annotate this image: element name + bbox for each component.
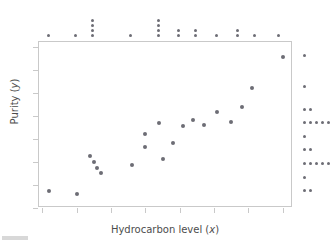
right-marginal-dot xyxy=(303,121,306,124)
top-marginal-dot xyxy=(91,24,94,27)
scatter-plot-figure: 868890929496981000.850.951.051.151.251.3… xyxy=(0,0,336,245)
right-marginal-dot xyxy=(315,121,318,124)
top-marginal-dot xyxy=(157,19,160,22)
top-marginal-dot xyxy=(47,34,50,37)
scatter-point xyxy=(130,163,134,167)
right-marginal-dot xyxy=(321,162,324,165)
right-marginal-dot xyxy=(321,121,324,124)
x-axis-title-text: Hydrocarbon level ( xyxy=(111,224,209,235)
top-marginal-dot xyxy=(74,34,77,37)
y-axis-tick xyxy=(33,70,38,71)
scatter-point xyxy=(215,110,219,114)
x-axis-title-close: ) xyxy=(215,224,219,235)
top-marginal-dot xyxy=(194,34,197,37)
scatter-point xyxy=(181,124,185,128)
scatter-point xyxy=(171,141,175,145)
screenshot-edge-artifact xyxy=(2,236,28,240)
scatter-point xyxy=(240,105,244,109)
x-axis-tick xyxy=(145,208,146,213)
top-marginal-dot xyxy=(91,29,94,32)
top-marginal-dot xyxy=(236,34,239,37)
right-marginal-dot xyxy=(303,108,306,111)
scatter-point xyxy=(47,189,51,193)
top-marginal-dot xyxy=(91,34,94,37)
right-marginal-dot xyxy=(303,162,306,165)
right-marginal-dot xyxy=(309,148,312,151)
right-marginal-dot-plot xyxy=(300,41,334,207)
x-axis-tick xyxy=(77,208,78,213)
scatter-point xyxy=(281,55,285,59)
x-axis-tick xyxy=(180,208,181,213)
right-marginal-dot xyxy=(315,162,318,165)
y-axis-tick xyxy=(33,116,38,117)
top-marginal-dot xyxy=(215,34,218,37)
right-marginal-dot xyxy=(309,121,312,124)
top-marginal-dot xyxy=(157,24,160,27)
x-axis-tick xyxy=(283,208,284,213)
top-marginal-dot xyxy=(91,19,94,22)
x-axis-tick xyxy=(42,208,43,213)
y-axis-title-close: ) xyxy=(9,79,20,83)
scatter-point xyxy=(157,121,161,125)
right-marginal-dot xyxy=(303,176,306,179)
y-axis-tick xyxy=(33,47,38,48)
scatter-point xyxy=(143,132,147,136)
y-axis-tick xyxy=(33,162,38,163)
top-marginal-dot xyxy=(129,34,132,37)
right-marginal-dot xyxy=(327,121,330,124)
top-marginal-dot xyxy=(177,34,180,37)
plot-frame: 868890929496981000.850.951.051.151.251.3… xyxy=(38,41,292,207)
y-axis-tick xyxy=(33,208,38,209)
right-marginal-dot xyxy=(309,162,312,165)
x-axis-tick xyxy=(111,208,112,213)
scatter-point xyxy=(143,145,147,149)
top-marginal-dot xyxy=(236,29,239,32)
top-marginal-dot xyxy=(157,34,160,37)
right-marginal-dot xyxy=(327,162,330,165)
y-axis-title-variable: y xyxy=(9,82,20,88)
right-marginal-dot xyxy=(303,135,306,138)
y-axis-tick xyxy=(33,93,38,94)
right-marginal-dot xyxy=(303,54,306,57)
plot-data-area xyxy=(39,42,291,206)
right-marginal-dot xyxy=(303,85,306,88)
x-axis-tick xyxy=(248,208,249,213)
y-axis-tick xyxy=(33,185,38,186)
x-axis-tick xyxy=(214,208,215,213)
top-marginal-dot-plot xyxy=(38,6,292,39)
y-axis-title: Purity (y) xyxy=(9,52,20,152)
scatter-point xyxy=(92,160,96,164)
scatter-point xyxy=(88,154,92,158)
top-marginal-dot xyxy=(194,29,197,32)
scatter-point xyxy=(250,86,254,90)
scatter-point xyxy=(202,123,206,127)
x-axis-title: Hydrocarbon level (x) xyxy=(38,224,292,235)
y-axis-title-text: Purity ( xyxy=(9,88,20,124)
top-marginal-dot xyxy=(177,29,180,32)
right-marginal-dot xyxy=(309,108,312,111)
y-axis-tick xyxy=(33,139,38,140)
top-marginal-dot xyxy=(253,34,256,37)
top-marginal-dot xyxy=(157,29,160,32)
top-marginal-dot xyxy=(277,34,280,37)
scatter-point xyxy=(95,166,99,170)
right-marginal-dot xyxy=(309,189,312,192)
scatter-point xyxy=(229,120,233,124)
scatter-point xyxy=(75,192,79,196)
right-marginal-dot xyxy=(303,148,306,151)
scatter-point xyxy=(99,171,103,175)
scatter-point xyxy=(161,157,165,161)
right-marginal-dot xyxy=(303,189,306,192)
scatter-point xyxy=(191,118,195,122)
